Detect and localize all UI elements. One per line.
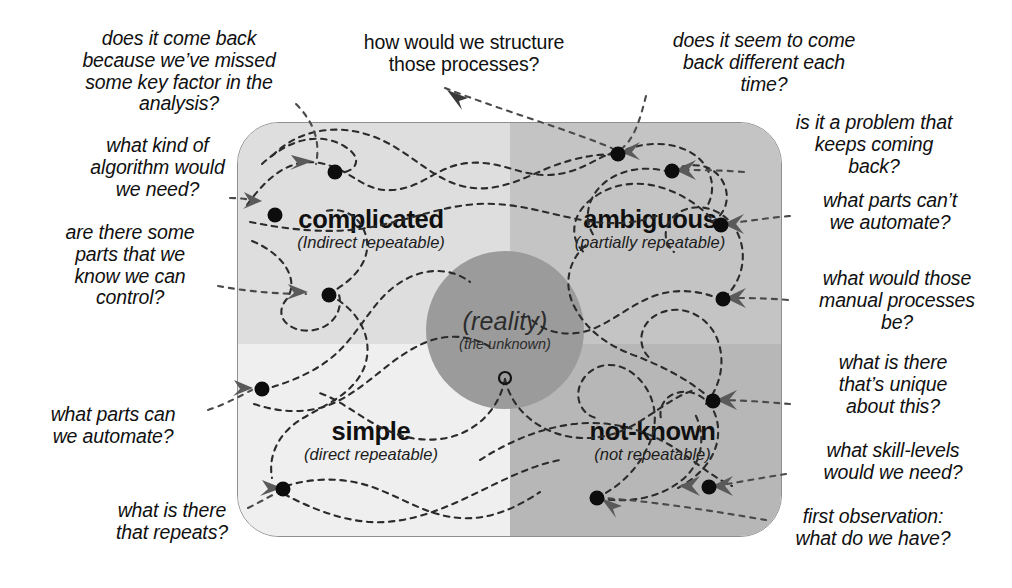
note-first-observation: first observation:what do we have?	[762, 506, 984, 550]
reality-label: (reality)	[462, 308, 547, 334]
quadrant-label-simple: simple (direct repeatable)	[271, 418, 471, 463]
note-missed-key-factor: does it come backbecause we’ve missedsom…	[48, 28, 310, 115]
quadrant-label-not-known: not-known (not repeatable)	[545, 418, 760, 463]
quadrant-title-simple: simple	[271, 418, 471, 445]
quadrant-label-ambiguous: ambiguous (partially repeatable)	[535, 206, 765, 251]
quadrant-subtitle-complicated: (Indirect repeatable)	[256, 234, 486, 251]
quadrant-label-complicated: complicated (Indirect repeatable)	[256, 206, 486, 251]
note-structure-processes: how would we structurethose processes?	[330, 32, 598, 76]
diagram-canvas: (reality) (the unknown) complicated (Ind…	[0, 0, 1012, 588]
quadrant-subtitle-simple: (direct repeatable)	[271, 446, 471, 463]
reality-sublabel: (the unknown)	[459, 337, 551, 352]
note-parts-cant-automate: what parts can’twe automate?	[790, 190, 990, 234]
quadrant-title-ambiguous: ambiguous	[535, 206, 765, 233]
quadrant-title-not-known: not-known	[545, 418, 760, 445]
note-manual-processes: what would thosemanual processesbe?	[786, 268, 1008, 333]
note-kind-of-algorithm: what kind ofalgorithm wouldwe need?	[50, 135, 265, 200]
note-parts-we-control: are there someparts that weknow we canco…	[30, 222, 230, 309]
note-skill-levels: what skill-levelswould we need?	[790, 440, 996, 484]
note-parts-we-automate: what parts canwe automate?	[8, 404, 218, 448]
reality-circle: (reality) (the unknown)	[426, 251, 584, 409]
quadrant-subtitle-ambiguous: (partially repeatable)	[535, 234, 765, 251]
note-unique-about-this: what is therethat’s uniqueabout this?	[800, 352, 986, 417]
note-back-different: does it seem to comeback different eacht…	[648, 30, 880, 95]
quadrant-subtitle-not-known: (not repeatable)	[545, 446, 760, 463]
note-keeps-coming-back: is it a problem thatkeeps comingback?	[758, 112, 990, 177]
quadrant-title-complicated: complicated	[256, 206, 486, 233]
note-what-repeats: what is therethat repeats?	[82, 500, 262, 544]
